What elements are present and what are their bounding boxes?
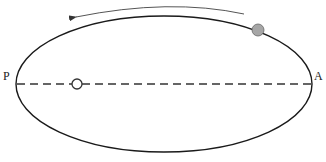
aphelion-label: A — [314, 70, 323, 82]
perihelion-label: P — [3, 70, 10, 82]
focus-circle-icon — [72, 79, 82, 89]
orbit-diagram: P A — [0, 0, 326, 162]
orbit-svg — [0, 0, 326, 162]
orbiting-body-icon — [252, 24, 264, 36]
